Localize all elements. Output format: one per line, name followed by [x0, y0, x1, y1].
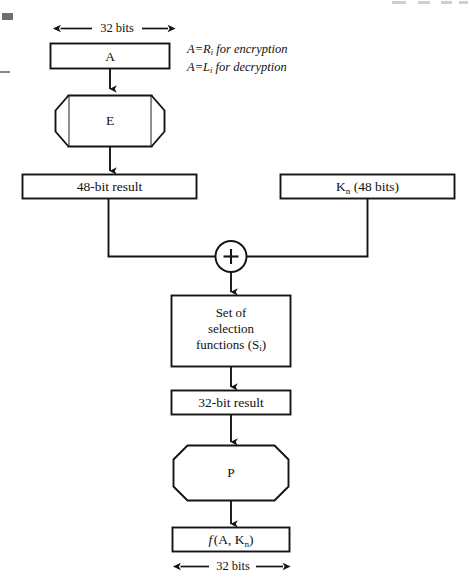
annotation-line-decryption: A=Li for decryption [187, 59, 287, 77]
selection-functions-label: Set of selection functions (Si) [172, 305, 290, 353]
scan-artifact-corner-square [2, 13, 13, 20]
permutation-label: P [173, 459, 289, 487]
scan-artifact-top-edge-1 [392, 1, 406, 4]
top-dimension-label: 32 bits [92, 21, 142, 35]
bottom-dimension-label: 32 bits [209, 559, 257, 573]
expansion-label: E [56, 108, 164, 134]
encryption-annotation: A=Ri for encryption A=Li for decryption [187, 41, 287, 77]
input-a-label: A [50, 44, 170, 69]
scan-artifact-top-edge-3 [441, 1, 452, 4]
expanded-result-label: 48-bit result [22, 175, 197, 199]
selection-line-3: functions (Si) [172, 337, 290, 353]
selection-line-1: Set of [172, 305, 290, 321]
annotation-line-encryption: A=Ri for encryption [187, 41, 287, 59]
scan-artifact-top-edge-4 [459, 1, 468, 4]
scan-artifact-margin-rule [0, 71, 10, 73]
connector-subkey-to-xor [247, 199, 368, 257]
diagram-canvas [0, 0, 471, 587]
connector-result-to-xor [109, 199, 216, 257]
sbox-result-label: 32-bit result [172, 391, 290, 415]
selection-line-2: selection [172, 321, 290, 337]
output-label: f(A, Kn) [172, 528, 290, 552]
scan-artifact-top-edge-2 [418, 1, 430, 4]
des-f-function-diagram: 32 bits A A=Ri for encryption A=Li for d… [0, 0, 471, 587]
subkey-label: Kn (48 bits) [280, 175, 455, 199]
